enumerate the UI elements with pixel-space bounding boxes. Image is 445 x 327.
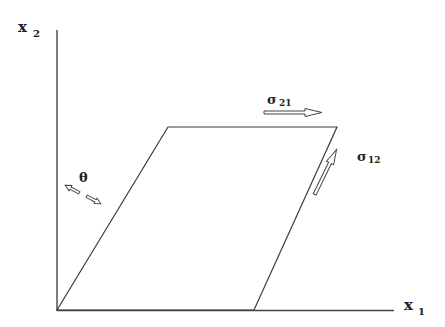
sheared-element [57,127,337,310]
x-axis-subscript: 1 [418,306,425,317]
sigma21-arrow-icon [264,109,322,117]
theta-arrows-icon [64,183,102,207]
y-axis-label: x [18,18,28,36]
sigma12-symbol: σ [357,149,367,164]
sigma21-symbol: σ [267,92,277,107]
theta-label: θ [79,170,88,185]
sigma21-subscript: 21 [279,98,292,108]
sigma12-subscript: 12 [368,155,381,165]
sigma12-arrow-icon [311,148,340,196]
y-axis-subscript: 2 [33,28,40,39]
shear-diagram: x 2 x 1 σ 21 σ 12 θ [0,0,445,327]
x-axis-label: x [404,296,414,314]
